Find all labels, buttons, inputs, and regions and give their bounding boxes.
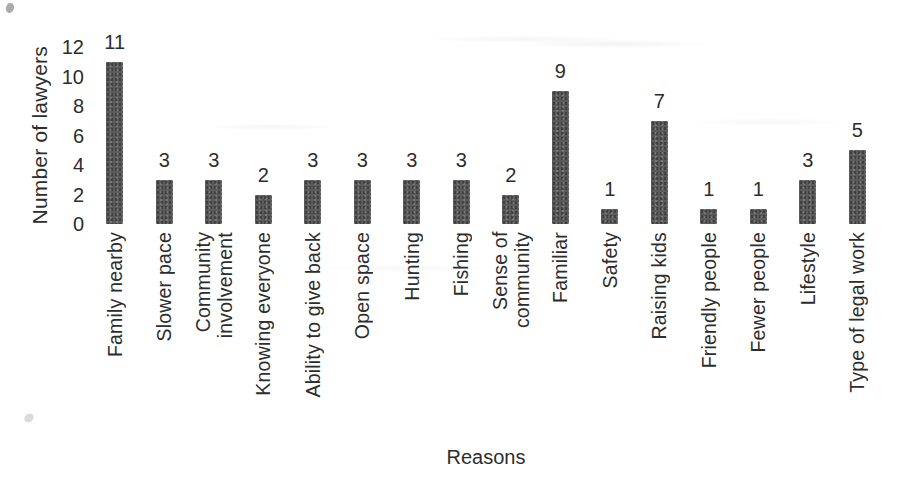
bar [403, 180, 420, 224]
x-tick-label: Community involvement [192, 232, 236, 338]
x-tick-label: Fewer people [747, 232, 769, 353]
x-tick-label: Family nearby [104, 232, 126, 357]
bar [354, 180, 371, 224]
scan-artifact [23, 412, 36, 424]
bar-value-label: 2 [258, 164, 269, 186]
x-tick: Lifestyle [783, 232, 833, 305]
x-tick: Raising kids [635, 232, 685, 340]
bar-column: 3 [140, 149, 190, 224]
y-tick-label: 6 [73, 125, 84, 147]
x-tick: Fewer people [734, 232, 784, 353]
plot-area: 11332333329171135 [90, 0, 882, 224]
bar [255, 195, 272, 225]
x-tick: Knowing everyone [239, 232, 289, 396]
y-tick-label: 4 [73, 154, 84, 176]
bar-value-label: 3 [357, 149, 368, 171]
x-tick: Community involvement [189, 232, 239, 338]
bar [453, 180, 470, 224]
bar-value-label: 3 [456, 149, 467, 171]
bar-column: 2 [239, 164, 289, 225]
x-tick: Sense of community [486, 232, 536, 328]
x-tick-label: Safety [599, 232, 621, 288]
x-tick-label: Lifestyle [797, 232, 819, 305]
x-tick-label: Slower pace [153, 232, 175, 342]
bar-column: 5 [833, 119, 883, 224]
bar [750, 209, 767, 224]
x-tick: Type of legal work [833, 232, 883, 393]
bar-column: 9 [536, 60, 586, 224]
x-tick: Open space [338, 232, 388, 339]
bar-value-label: 3 [307, 149, 318, 171]
bar-column: 3 [387, 149, 437, 224]
x-tick-label: Open space [351, 232, 373, 339]
bar-column: 3 [288, 149, 338, 224]
x-axis-labels: Family nearbySlower paceCommunity involv… [90, 232, 882, 398]
bar-column: 2 [486, 164, 536, 225]
y-tick-label: 12 [62, 36, 84, 58]
bar-value-label: 9 [555, 60, 566, 82]
bar-column: 3 [783, 149, 833, 224]
x-tick: Safety [585, 232, 635, 288]
x-tick: Familiar [536, 232, 586, 303]
y-axis-ticks: 121086420 [0, 0, 84, 270]
x-axis-title: Reasons [90, 446, 882, 469]
bar-value-label: 7 [654, 90, 665, 112]
x-tick-label: Type of legal work [846, 232, 868, 393]
bar [502, 195, 519, 225]
bar [304, 180, 321, 224]
bar-column: 3 [338, 149, 388, 224]
bar-value-label: 3 [802, 149, 813, 171]
bar-column: 1 [585, 178, 635, 224]
bar [552, 91, 569, 224]
bar-value-label: 5 [852, 119, 863, 141]
x-tick-label: Friendly people [698, 232, 720, 368]
bar-value-label: 1 [604, 178, 615, 200]
x-tick: Slower pace [140, 232, 190, 342]
bar-column: 3 [437, 149, 487, 224]
x-tick: Family nearby [90, 232, 140, 357]
y-tick-label: 2 [73, 184, 84, 206]
bar-value-label: 3 [159, 149, 170, 171]
bar [849, 150, 866, 224]
x-tick: Friendly people [684, 232, 734, 368]
y-tick-label: 10 [62, 66, 84, 88]
x-tick-label: Raising kids [648, 232, 670, 340]
bar [651, 121, 668, 224]
x-tick: Ability to give back [288, 232, 338, 398]
bar-column: 3 [189, 149, 239, 224]
bar [601, 209, 618, 224]
x-tick-label: Ability to give back [302, 232, 324, 398]
bar-value-label: 3 [208, 149, 219, 171]
bar-value-label: 3 [406, 149, 417, 171]
x-tick-label: Familiar [549, 232, 571, 303]
y-tick-label: 0 [73, 213, 84, 235]
x-tick-label: Fishing [450, 232, 472, 296]
bar-column: 1 [684, 178, 734, 224]
bar-chart-figure: Number of lawyers 121086420 113323333291… [0, 0, 903, 488]
bar [156, 180, 173, 224]
x-tick: Hunting [387, 232, 437, 301]
bar-value-label: 2 [505, 164, 516, 186]
bar [205, 180, 222, 224]
bar [700, 209, 717, 224]
bar-value-label: 1 [753, 178, 764, 200]
bar-column: 11 [90, 31, 140, 224]
bar-value-label: 1 [703, 178, 714, 200]
x-tick-label: Knowing everyone [252, 232, 274, 396]
bar [106, 62, 123, 224]
y-tick-label: 8 [73, 95, 84, 117]
x-tick-label: Hunting [401, 232, 423, 301]
bar-column: 1 [734, 178, 784, 224]
x-tick-label: Sense of community [489, 232, 533, 328]
x-tick: Fishing [437, 232, 487, 296]
bar-value-label: 11 [104, 31, 125, 53]
bar [799, 180, 816, 224]
bar-column: 7 [635, 90, 685, 224]
